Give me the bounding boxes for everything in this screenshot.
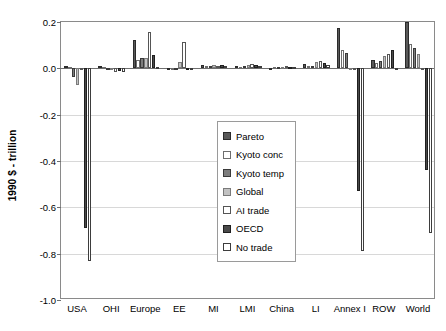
- bar: [84, 68, 87, 227]
- bar: [417, 54, 420, 68]
- bar: [102, 67, 105, 69]
- legend-item: Kyoto temp: [223, 164, 291, 183]
- bar: [106, 68, 109, 70]
- x-tick-label: China: [269, 303, 294, 314]
- x-tick-label: LI: [312, 303, 320, 314]
- bar: [156, 67, 159, 69]
- bar: [178, 62, 181, 68]
- bar: [243, 66, 246, 68]
- bar: [250, 64, 253, 69]
- legend-item-label: Kyoto temp: [236, 169, 284, 179]
- y-tick-label: -0.4: [40, 156, 56, 167]
- bar-chart: 1990 $ - trillion 0.20.0-0.2-0.4-0.6-0.8…: [0, 0, 446, 331]
- bar: [80, 68, 83, 70]
- bar: [395, 68, 398, 70]
- bar: [315, 62, 318, 68]
- bar: [110, 68, 113, 70]
- bar: [212, 65, 215, 69]
- y-axis-title-text: 1990 $ - trillion: [8, 130, 19, 202]
- bar: [383, 56, 386, 68]
- bar: [76, 68, 79, 85]
- legend-item-label: OECD: [236, 224, 263, 234]
- bar: [254, 65, 257, 68]
- bar-group: [334, 22, 368, 298]
- y-tick-label: 0.0: [43, 63, 56, 74]
- bar: [413, 48, 416, 68]
- bar: [205, 66, 208, 69]
- bar: [133, 40, 136, 69]
- bar: [371, 60, 374, 68]
- legend-swatch-kyoto-temp: [223, 169, 231, 177]
- x-tick-label: OHI: [103, 303, 120, 314]
- bar: [209, 66, 212, 68]
- bar-group: [163, 22, 197, 298]
- bar: [122, 68, 125, 72]
- legend-item: Kyoto conc: [223, 146, 291, 165]
- bar: [216, 66, 219, 69]
- y-tick-label: -1.0: [40, 295, 56, 306]
- bar: [171, 68, 174, 70]
- bar: [186, 68, 189, 70]
- bar: [353, 68, 356, 70]
- bar: [269, 68, 272, 70]
- y-tick-label: 0.2: [43, 17, 56, 28]
- bar: [64, 66, 67, 69]
- bar: [349, 68, 352, 70]
- bar: [239, 67, 242, 69]
- bar: [391, 50, 394, 68]
- bar: [98, 66, 101, 69]
- bar: [281, 67, 284, 69]
- bar: [247, 65, 250, 68]
- x-tick-label: ROW: [372, 303, 395, 314]
- bar: [319, 61, 322, 69]
- y-axis-title: 1990 $ - trillion: [4, 0, 22, 331]
- bar: [307, 66, 310, 68]
- chart-legend: ParetoKyoto concKyoto tempGlobalAI trade…: [217, 121, 296, 262]
- legend-item-label: Global: [236, 187, 263, 197]
- bar: [182, 42, 185, 68]
- bar: [288, 67, 291, 69]
- bar: [337, 28, 340, 68]
- bar-group: [402, 22, 436, 298]
- bar: [341, 50, 344, 69]
- bar: [152, 55, 155, 68]
- legend-item-label: No trade: [236, 243, 272, 253]
- bar: [326, 65, 329, 68]
- y-tick-mark: [57, 300, 61, 301]
- bar: [409, 44, 412, 68]
- legend-swatch-global: [223, 188, 231, 196]
- legend-item: No trade: [223, 238, 291, 257]
- legend-item: Pareto: [223, 127, 291, 146]
- bar: [405, 22, 408, 69]
- bar: [136, 60, 139, 68]
- bar: [72, 68, 75, 76]
- legend-item: OECD: [223, 220, 291, 239]
- y-tick-label: -0.6: [40, 202, 56, 213]
- bar: [273, 67, 276, 69]
- x-tick-label: World: [406, 303, 431, 314]
- bar: [285, 66, 288, 68]
- legend-item-label: Kyoto conc: [236, 150, 283, 160]
- bar-group: [61, 22, 95, 298]
- bar: [174, 68, 177, 70]
- bar: [167, 68, 170, 70]
- bar: [421, 68, 424, 70]
- bar: [292, 67, 295, 69]
- bar: [220, 65, 223, 68]
- bar: [425, 68, 428, 170]
- bar: [375, 63, 378, 68]
- bar-group: [129, 22, 163, 298]
- bar: [88, 68, 91, 261]
- legend-swatch-no-trade: [223, 243, 231, 251]
- bar: [224, 66, 227, 68]
- legend-item: AI trade: [223, 201, 291, 220]
- bar: [144, 58, 147, 69]
- bar: [311, 66, 314, 69]
- bar: [68, 67, 71, 69]
- bar: [190, 68, 193, 70]
- bar: [387, 54, 390, 69]
- bar: [258, 66, 261, 69]
- bar: [140, 58, 143, 68]
- legend-swatch-kyoto-conc: [223, 151, 231, 159]
- bar: [323, 63, 326, 68]
